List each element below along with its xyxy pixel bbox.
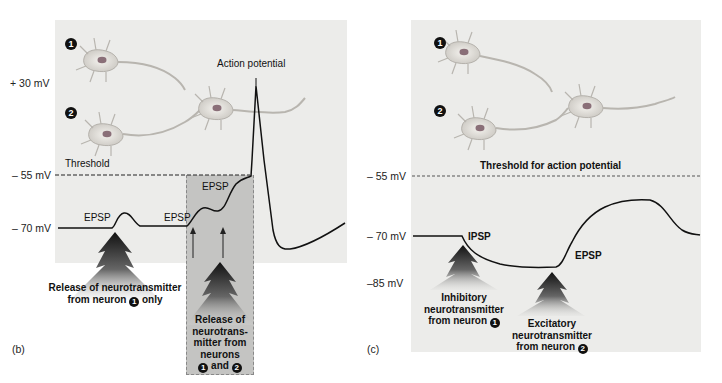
- neuron-1-c: [438, 30, 552, 92]
- excitatory-arrow: [517, 272, 585, 316]
- neuron-1-inline-marker: 1: [198, 363, 208, 373]
- axis-label-minus55-b: – 55 mV: [12, 169, 51, 181]
- small-arrow-neuron-2: [220, 227, 226, 258]
- epsp-label-c: EPSP: [575, 250, 602, 262]
- neuron-1-inline-marker: 1: [129, 297, 139, 307]
- postsynaptic-neuron-c: [561, 84, 675, 128]
- panel-c-label: (c): [367, 343, 379, 355]
- neuron-1-marker-b: 1: [65, 38, 77, 50]
- inhibitory-caption: Inhibitory neurotransmitter from neuron …: [420, 292, 508, 328]
- panel-b-label: (b): [12, 343, 25, 355]
- axis-label-minus55-c: – 55 mV: [367, 170, 406, 182]
- neuron-1-inline-marker: 1: [490, 318, 500, 328]
- neuron-2-marker-c: 2: [434, 105, 446, 117]
- release-neuron-1-caption: Release of neurotransmitter from neuron …: [30, 282, 200, 307]
- ipsp-label: IPSP: [468, 231, 491, 243]
- excitatory-caption: Excitatory neurotransmitter from neuron …: [508, 318, 596, 354]
- neuron-2-inline-marker: 2: [232, 363, 242, 373]
- release-neuron-1-line1: Release of neurotransmitter: [30, 282, 200, 294]
- epsp-label-summation-start: EPSP: [164, 212, 191, 223]
- threshold-label-b: Threshold: [65, 158, 109, 169]
- neuron-2-b: [81, 110, 200, 156]
- inhibitory-arrow: [430, 245, 498, 290]
- diagram-graphics: [0, 0, 722, 383]
- small-arrow-neuron-1: [190, 227, 196, 258]
- threshold-label-c: Threshold for action potential: [480, 160, 621, 172]
- neuron-2-marker-b: 2: [65, 107, 77, 119]
- axis-label-minus70-c: – 70 mV: [367, 230, 406, 242]
- neuron-1-b: [76, 38, 185, 90]
- neuron-2-c: [454, 106, 568, 150]
- action-potential-label: Action potential: [217, 58, 285, 69]
- axis-label-plus30-b: + 30 mV: [10, 77, 49, 89]
- release-neuron-1-line2: from neuron 1 only: [30, 294, 200, 307]
- neuron-1-marker-c: 1: [434, 37, 446, 49]
- axis-label-minus85-c: –85 mV: [367, 277, 403, 289]
- epsp-label-neuron-1: EPSP: [84, 212, 111, 223]
- epsp-label-summation-peak: EPSP: [202, 181, 229, 192]
- neuron-2-inline-marker: 2: [578, 344, 588, 354]
- postsynaptic-neuron-b: [191, 86, 305, 130]
- axis-label-minus70-b: – 70 mV: [12, 222, 51, 234]
- release-neurons-1-2-caption: Release of neurotrans- mitter from neuro…: [186, 314, 254, 373]
